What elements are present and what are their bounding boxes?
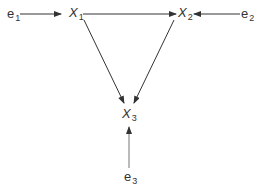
node-x3: X3 [122,107,137,123]
node-e3-sub: 3 [132,176,137,186]
node-e1-var: e [7,6,14,21]
node-x3-var: X [122,106,131,121]
node-x2-var: X [178,5,187,20]
node-e3-var: e [124,169,131,184]
node-x1-sub: 1 [79,12,84,22]
node-e1: e1 [7,7,20,23]
node-x2: X2 [178,6,193,22]
diagram-edges [0,0,262,188]
node-e3: e3 [124,170,137,186]
node-e2: e2 [241,7,254,23]
node-x2-sub: 2 [188,12,193,22]
node-x1: X1 [69,6,84,22]
node-x1-var: X [69,5,78,20]
node-x3-sub: 3 [132,113,137,123]
path-diagram: e1 X1 X2 e2 X3 e3 [0,0,262,188]
edge-x1-x3 [84,20,124,103]
edge-x2-x3 [134,20,174,103]
node-e1-sub: 1 [15,13,20,23]
node-e2-sub: 2 [249,13,254,23]
node-e2-var: e [241,6,248,21]
